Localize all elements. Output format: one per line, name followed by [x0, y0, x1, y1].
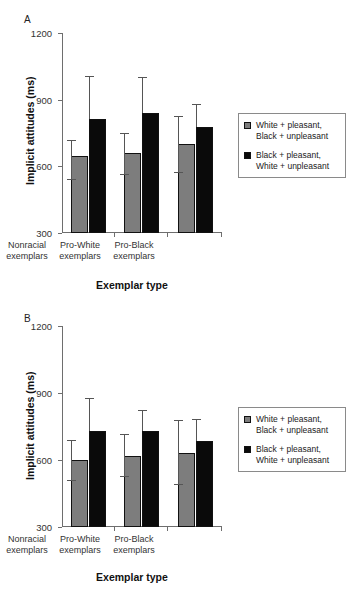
bar-nonracial-black-pleasant-b: [89, 431, 106, 527]
errorbar-cap-top: [192, 419, 201, 420]
errorbar-nonracial-white-pleasant-b: [71, 440, 72, 481]
y-tick-label-300-b: 300: [36, 522, 52, 533]
y-tick-300-b: 300: [58, 527, 62, 528]
chart-panel-b: B Implicit attitudes (ms) 1200 900 600 3…: [0, 300, 362, 595]
errorbar-pro-black-black-pleasant-b: [196, 419, 197, 441]
legend-label-white-pleasant-a: White + pleasant, Black + unpleasant: [256, 120, 328, 141]
plot-area-b: 1200 900 600 300: [62, 326, 222, 527]
y-tick-1200-b: 1200: [58, 326, 62, 327]
x-axis-title-a: Exemplar type: [42, 279, 222, 291]
errorbar-cap-top: [174, 420, 183, 421]
plot-area-a: 1200 900 600 300: [62, 33, 222, 233]
errorbar-cap-bottom: [174, 172, 183, 173]
bar-nonracial-black-pleasant-a: [89, 119, 106, 233]
x-tick-3-b: [221, 527, 222, 531]
bar-pro-white-white-pleasant-b: [124, 456, 141, 527]
y-tick-1200-a: 1200: [58, 33, 62, 34]
x-tick-1-a: [114, 233, 115, 237]
errorbar-cap-top: [67, 140, 76, 141]
panel-label-b: B: [24, 313, 31, 324]
legend-label-white-pleasant-b: White + pleasant, Black + unpleasant: [256, 414, 328, 435]
errorbar-cap-top: [120, 434, 129, 435]
y-tick-900-a: 900: [58, 100, 62, 101]
errorbar-cap-top: [85, 398, 94, 399]
bar-pro-black-black-pleasant-b: [196, 441, 213, 527]
y-tick-label-900-a: 900: [36, 94, 52, 105]
x-category-label-pro-black-b: Pro-Black exemplars: [99, 534, 169, 556]
y-tick-label-1200-b: 1200: [31, 321, 52, 332]
bar-group-pro-black-a: [178, 33, 213, 233]
legend-a: White + pleasant, Black + unpleasant Bla…: [238, 113, 346, 178]
x-tick-3-a: [221, 233, 222, 237]
x-tick-2-a: [167, 233, 168, 237]
bar-group-nonracial-b: [71, 326, 106, 527]
y-axis-title-a: Implicit attitudes (ms): [24, 76, 36, 185]
errorbar-pro-black-black-pleasant-a: [196, 104, 197, 127]
y-axis-line-a: [62, 33, 63, 233]
y-tick-900-b: 900: [58, 393, 62, 394]
bar-group-pro-white-a: [124, 33, 159, 233]
bar-pro-black-white-pleasant-b: [178, 453, 195, 527]
y-tick-label-300-a: 300: [36, 228, 52, 239]
chart-panel-a: A Implicit attitudes (ms) 1200 900 600 3…: [0, 0, 362, 300]
bar-nonracial-white-pleasant-b: [71, 460, 88, 527]
errorbar-pro-black-white-pleasant-a: [178, 116, 179, 173]
y-tick-300-a: 300: [58, 233, 62, 234]
errorbar-pro-white-white-pleasant-b: [124, 434, 125, 476]
errorbar-cap-top: [174, 116, 183, 117]
errorbar-cap-bottom: [67, 179, 76, 180]
errorbar-pro-white-black-pleasant-a: [142, 77, 143, 113]
errorbar-pro-white-white-pleasant-a: [124, 133, 125, 175]
panel-label-a: A: [24, 14, 31, 25]
errorbar-cap-top: [138, 77, 147, 78]
y-axis-title-b: Implicit attitudes (ms): [24, 371, 36, 480]
y-tick-label-1200-a: 1200: [31, 28, 52, 39]
legend-item-white-pleasant-b: White + pleasant, Black + unpleasant: [244, 414, 339, 435]
bar-group-pro-black-b: [178, 326, 213, 527]
y-tick-label-600-b: 600: [36, 455, 52, 466]
legend-swatch-gray-icon: [244, 122, 251, 129]
bar-pro-white-black-pleasant-a: [142, 113, 159, 233]
legend-swatch-gray-icon: [244, 416, 251, 423]
errorbar-nonracial-black-pleasant-b: [89, 398, 90, 432]
legend-swatch-black-icon: [244, 446, 251, 453]
bar-group-pro-white-b: [124, 326, 159, 527]
errorbar-cap-top: [67, 440, 76, 441]
bar-pro-black-black-pleasant-a: [196, 127, 213, 233]
errorbar-cap-top: [138, 410, 147, 411]
legend-label-black-pleasant-b: Black + pleasant, White + unpleasant: [256, 444, 329, 465]
errorbar-cap-top: [85, 76, 94, 77]
errorbar-pro-black-white-pleasant-b: [178, 420, 179, 485]
legend-item-white-pleasant-a: White + pleasant, Black + unpleasant: [244, 120, 339, 141]
legend-label-black-pleasant-a: Black + pleasant, White + unpleasant: [256, 150, 329, 171]
y-tick-600-b: 600: [58, 460, 62, 461]
bar-group-nonracial-a: [71, 33, 106, 233]
x-category-label-pro-black-a: Pro-Black exemplars: [99, 240, 169, 262]
legend-b: White + pleasant, Black + unpleasant Bla…: [238, 407, 346, 472]
y-tick-label-900-b: 900: [36, 388, 52, 399]
y-tick-label-600-a: 600: [36, 161, 52, 172]
errorbar-cap-bottom: [174, 484, 183, 485]
bar-nonracial-white-pleasant-a: [71, 156, 88, 233]
bar-pro-black-white-pleasant-a: [178, 144, 195, 233]
errorbar-cap-top: [120, 133, 129, 134]
x-tick-2-b: [167, 527, 168, 531]
legend-item-black-pleasant-a: Black + pleasant, White + unpleasant: [244, 150, 339, 171]
x-tick-1-b: [114, 527, 115, 531]
legend-item-black-pleasant-b: Black + pleasant, White + unpleasant: [244, 444, 339, 465]
errorbar-pro-white-black-pleasant-b: [142, 410, 143, 431]
y-tick-600-a: 600: [58, 166, 62, 167]
legend-swatch-black-icon: [244, 152, 251, 159]
bar-pro-white-black-pleasant-b: [142, 431, 159, 527]
errorbar-cap-top: [192, 104, 201, 105]
x-axis-title-b: Exemplar type: [42, 571, 222, 583]
errorbar-cap-bottom: [120, 174, 129, 175]
errorbar-nonracial-black-pleasant-a: [89, 76, 90, 118]
y-axis-line-b: [62, 326, 63, 527]
errorbar-nonracial-white-pleasant-a: [71, 140, 72, 180]
errorbar-cap-bottom: [120, 476, 129, 477]
bar-pro-white-white-pleasant-a: [124, 153, 141, 233]
errorbar-cap-bottom: [67, 480, 76, 481]
